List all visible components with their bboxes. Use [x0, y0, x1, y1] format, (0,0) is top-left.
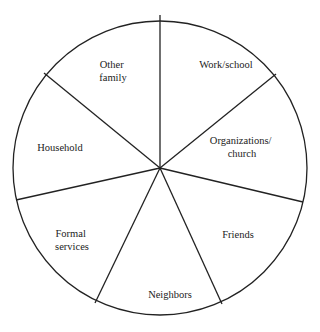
spokes: [16, 15, 303, 304]
segment-label-other-family: Other family: [99, 59, 127, 83]
spoke-upper-right: [160, 74, 276, 168]
spoke-bottom-left: [95, 168, 160, 303]
segment-label-organizations-church: Organizations/ church: [210, 135, 274, 159]
support-network-circle-diagram: Work/school Organizations/ church Friend…: [0, 0, 320, 332]
spoke-lower-left: [16, 168, 160, 200]
segment-label-formal-services: Formal services: [55, 228, 89, 252]
segment-label-work-school: Work/school: [199, 59, 252, 70]
segment-label-friends: Friends: [222, 229, 254, 240]
segment-label-neighbors: Neighbors: [148, 289, 192, 300]
spoke-bottom-right: [160, 168, 222, 304]
spoke-lower-right: [160, 168, 303, 202]
spoke-upper-left: [44, 73, 160, 168]
segment-labels: Work/school Organizations/ church Friend…: [37, 59, 274, 300]
segment-label-household: Household: [37, 142, 83, 153]
